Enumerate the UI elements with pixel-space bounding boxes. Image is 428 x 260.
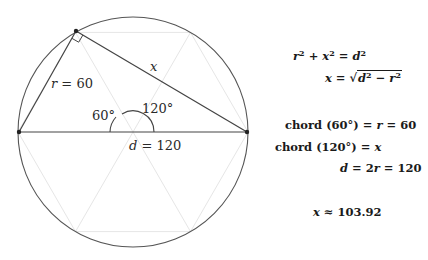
label-r: r = 60 [51, 76, 93, 91]
label-angle-120: 120° [142, 101, 173, 116]
equation-diameter: d = 2r = 120 [340, 161, 421, 175]
equation-x-sqrt: x = √d2 − r2 [325, 71, 402, 85]
label-angle-60: 60° [92, 108, 115, 123]
point-right [245, 130, 249, 134]
point-left [17, 130, 21, 134]
label-x: x [150, 59, 158, 74]
point-top [74, 29, 78, 33]
label-d: d = 120 [129, 138, 181, 153]
equation-pythagoras: r2 + x2 = d2 [293, 49, 366, 63]
equation-chord-60: chord (60°) = r = 60 [285, 118, 416, 132]
equation-result: x ≈ 103.92 [313, 205, 382, 219]
circle-chord-diagram: r = 60 x 60° 120° d = 120 [0, 0, 270, 260]
equation-chord-120: chord (120°) = x [275, 140, 381, 154]
